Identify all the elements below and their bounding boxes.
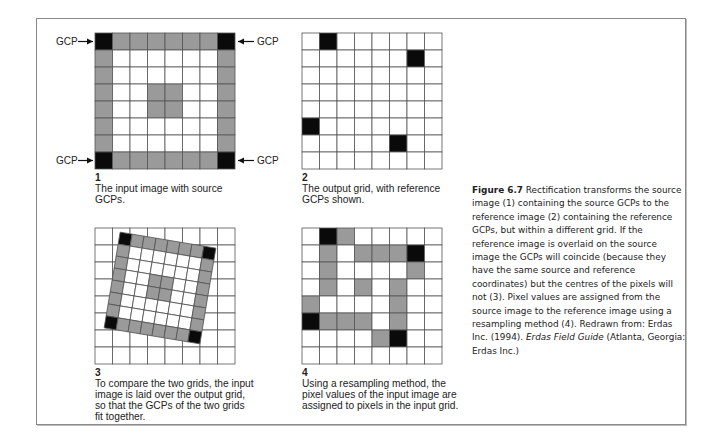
panel-4-cell-r6-c7 (425, 330, 443, 347)
panel-2-cell-r6-c0 (302, 135, 320, 152)
panel-2-cell-r4-c1 (320, 101, 338, 118)
panel-1-cell-r6-c5 (183, 135, 201, 152)
panel-3-input-overlay-cell-r6-c2 (130, 308, 144, 322)
panel-1-cell-r5-c7 (218, 118, 236, 135)
panel-4-cell-r1-c6-gcp (407, 245, 425, 262)
panel-2-cell-r2-c5 (390, 67, 408, 84)
panel-3-input-overlay-cell-r6-c5 (166, 314, 180, 328)
panel-4-cell-r7-c7 (425, 347, 443, 364)
panel-3-input-overlay-cell-r7-c2 (128, 320, 142, 334)
panel-3-input-overlay-cells (104, 232, 216, 344)
panel-3-input-overlay-cell-r4-c2 (134, 284, 148, 298)
figure-label: Figure 6.7 (472, 185, 523, 195)
panel-2-cells (302, 33, 442, 169)
panel-4-caption: 4 Using a resampling method, the pixel v… (302, 367, 462, 411)
panel-3-output-grid-cell-r0-c6 (200, 228, 218, 245)
panel-3-input-overlay-cell-r0-c4 (166, 240, 180, 254)
panel-2-cell-r6-c6 (407, 135, 425, 152)
panel-1-cell-r4-c7 (218, 101, 236, 118)
panel-4-cell-r5-c5 (390, 313, 408, 330)
panel-3-input-overlay-cell-r3-c7 (196, 282, 210, 296)
panel-2-cell-r4-c4 (372, 101, 390, 118)
panel-2-cell-r7-c2 (337, 152, 355, 169)
panel-3-input-overlay-cell-r7-c1 (116, 318, 130, 332)
panel-4-cell-r6-c3 (355, 330, 373, 347)
panel-4-cell-r6-c0 (302, 330, 320, 347)
panel-1-cell-r2-c6 (200, 67, 218, 84)
panel-3-caption-text: To compare the two grids, the input imag… (95, 378, 254, 422)
panel-3-input-overlay-cell-r7-c3 (140, 322, 154, 336)
gcp-label-bottom-left: GCP (56, 155, 78, 166)
panel-4-cell-r5-c1 (320, 313, 338, 330)
panel-1-cell-r0-c7-gcp (218, 33, 236, 50)
panel-4-caption-text: Using a resampling method, the pixel val… (302, 378, 458, 411)
panel-1-cell-r7-c1 (113, 152, 131, 169)
panel-4-cell-r0-c5 (390, 228, 408, 245)
panel-1-cell-r1-c0 (95, 50, 113, 67)
panel-1-cell-r3-c5 (183, 84, 201, 101)
panel-4-cell-r0-c3 (355, 228, 373, 245)
panel-3-output-grid-cell-r2-c7 (218, 262, 236, 279)
panel-3-input-overlay-cell-r2-c5 (174, 266, 188, 280)
panel-3-input-overlay-cell-r4-c6 (182, 292, 196, 306)
panel-3-input-overlay-cell-r1-c4 (164, 252, 178, 266)
panel-2-cell-r5-c2 (337, 118, 355, 135)
panel-1-caption: 1 The input image with source GCPs. (95, 172, 245, 205)
panel-2-cell-r3-c2 (337, 84, 355, 101)
panel-2-cell-r5-c4 (372, 118, 390, 135)
panel-3-input-overlay-cell-r0-c7-gcp (202, 246, 216, 260)
panel-2-cell-r7-c7 (425, 152, 443, 169)
panel-1-cell-r3-c7 (218, 84, 236, 101)
panel-2-cell-r7-c0 (302, 152, 320, 169)
panel-2-cell-r5-c7 (425, 118, 443, 135)
panel-3-rotated-input-image (104, 232, 216, 344)
panel-2-cell-r5-c6 (407, 118, 425, 135)
panel-4-cell-r5-c3 (355, 313, 373, 330)
panel-2-cell-r5-c0-gcp (302, 118, 320, 135)
panel-4-cell-r4-c6 (407, 296, 425, 313)
panel-3-input-overlay-cell-r5-c3 (144, 298, 158, 312)
panel-4-cell-r7-c6 (407, 347, 425, 364)
panel-4-cell-r6-c4 (372, 330, 390, 347)
panel-3-input-overlay-cell-r3-c5 (172, 278, 186, 292)
panel-4-cell-r0-c1-gcp (320, 228, 338, 245)
panel-4-cell-r4-c7 (425, 296, 443, 313)
panel-2-cell-r6-c1 (320, 135, 338, 152)
panel-1-cell-r2-c2 (130, 67, 148, 84)
panel-1-cell-r2-c3 (148, 67, 166, 84)
figure-caption-text-1: Rectification transforms the source imag… (472, 185, 681, 342)
panel-4-cells (302, 228, 442, 364)
panel-1-caption-text: The input image with source GCPs. (95, 183, 222, 205)
panel-3-output-grid-cell-r7-c6 (200, 347, 218, 364)
panel-2-cell-r4-c3 (355, 101, 373, 118)
panel-3-output-grid-cell-r7-c3 (148, 347, 166, 364)
panel-1-cell-r7-c7-gcp (218, 152, 236, 169)
gcp-label-top-left: GCP (56, 36, 78, 47)
panel-4-cell-r1-c3 (355, 245, 373, 262)
panel-1-cell-r0-c5 (183, 33, 201, 50)
panel-3-input-overlay-cell-r4-c1 (122, 282, 136, 296)
panel-2-cell-r6-c5-gcp (390, 135, 408, 152)
panel-4-cell-r3-c6 (407, 279, 425, 296)
panel-2-cell-r0-c0 (302, 33, 320, 50)
panel-1-cell-r1-c6 (200, 50, 218, 67)
panel-4-cell-r4-c4 (372, 296, 390, 313)
panel-2-cell-r7-c3 (355, 152, 373, 169)
panel-1-cell-r7-c5 (183, 152, 201, 169)
panel-1-cell-r5-c1 (113, 118, 131, 135)
panel-4-cell-r3-c1 (320, 279, 338, 296)
panel-1-cell-r6-c4 (165, 135, 183, 152)
panel-3-input-overlay-cell-r2-c1 (126, 258, 140, 272)
panel-3-output-grid-cell-r4-c7 (218, 296, 236, 313)
panel-1-cell-r3-c0 (95, 84, 113, 101)
panel-1-cell-r1-c4 (165, 50, 183, 67)
panel-2-cell-r4-c5 (390, 101, 408, 118)
panel-1-cell-r4-c3 (148, 101, 166, 118)
panel-4-cell-r2-c1 (320, 262, 338, 279)
panel-1-cell-r7-c3 (148, 152, 166, 169)
panel-4-cell-r2-c4 (372, 262, 390, 279)
gcp-label-bottom-right: GCP (257, 155, 279, 166)
panel-1-cell-r3-c4 (165, 84, 183, 101)
panel-2-cell-r1-c4 (372, 50, 390, 67)
panel-3-output-grid-cell-r6-c7 (218, 330, 236, 347)
